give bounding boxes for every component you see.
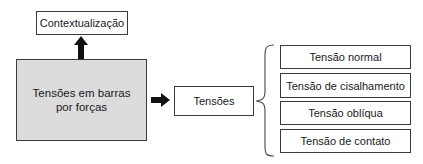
main-topic-line2: por forças	[56, 100, 107, 114]
main-topic-line1: Tensões em barras	[33, 86, 131, 100]
main-topic-box: Tensões em barras por forças	[16, 59, 147, 141]
type-label: Tensão normal	[309, 50, 381, 64]
arrow-up-icon	[74, 36, 88, 59]
tensoes-box: Tensões	[174, 86, 254, 116]
arrow-right-icon	[151, 93, 170, 107]
type-label: Tensão de contato	[301, 134, 391, 148]
type-box-cisalhamento: Tensão de cisalhamento	[280, 73, 411, 98]
type-box-obliqua: Tensão oblíqua	[280, 101, 411, 125]
tensoes-label: Tensões	[194, 94, 235, 108]
curly-brace-icon	[256, 45, 274, 156]
type-label: Tensão oblíqua	[308, 106, 383, 120]
type-box-normal: Tensão normal	[280, 45, 411, 69]
type-label: Tensão de cisalhamento	[286, 79, 405, 93]
type-box-contato: Tensão de contato	[280, 129, 411, 153]
contextualizacao-box: Contextualização	[36, 11, 128, 35]
contextualizacao-label: Contextualização	[40, 16, 124, 30]
